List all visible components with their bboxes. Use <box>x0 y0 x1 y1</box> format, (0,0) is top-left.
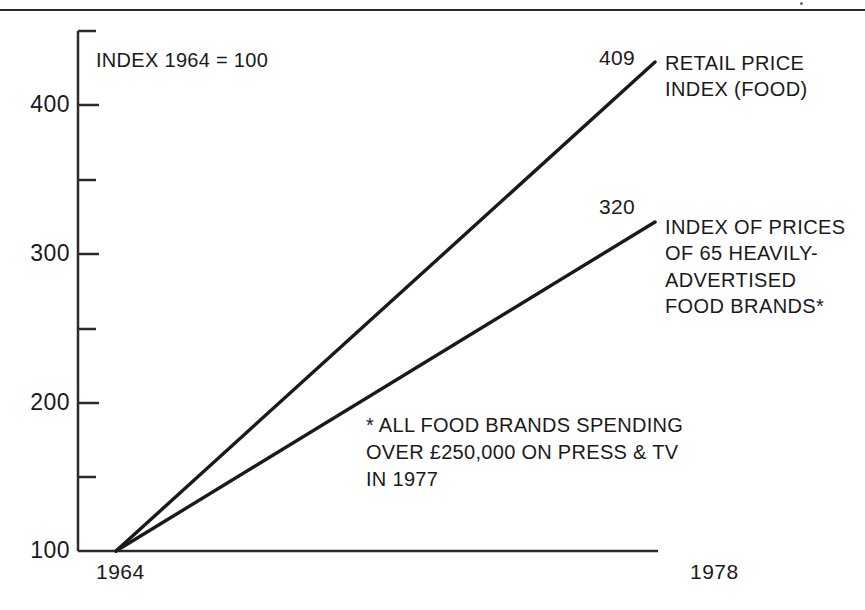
y-tick-label-100: 100 <box>8 539 70 562</box>
x-tick-label-1964: 1964 <box>96 561 145 582</box>
chart-page: 400 300 200 100 1964 1978 INDEX 1964 = 1… <box>0 0 865 610</box>
series-line-advertised-food-brands <box>116 222 655 551</box>
series-label-advertised-food-brands: INDEX OF PRICES OF 65 HEAVILY- ADVERTISE… <box>665 214 845 320</box>
y-tick-label-200: 200 <box>8 391 70 414</box>
y-tick-label-400: 400 <box>8 93 70 116</box>
chart-footnote: * ALL FOOD BRANDS SPENDING OVER £250,000… <box>366 412 683 492</box>
value-label-409: 409 <box>599 47 635 68</box>
x-tick-label-1978: 1978 <box>690 561 739 582</box>
value-label-320: 320 <box>599 196 635 217</box>
series-label-retail-price-index: RETAIL PRICE INDEX (FOOD) <box>665 50 808 103</box>
y-tick-label-300: 300 <box>8 242 70 265</box>
index-base-annotation: INDEX 1964 = 100 <box>96 50 268 70</box>
